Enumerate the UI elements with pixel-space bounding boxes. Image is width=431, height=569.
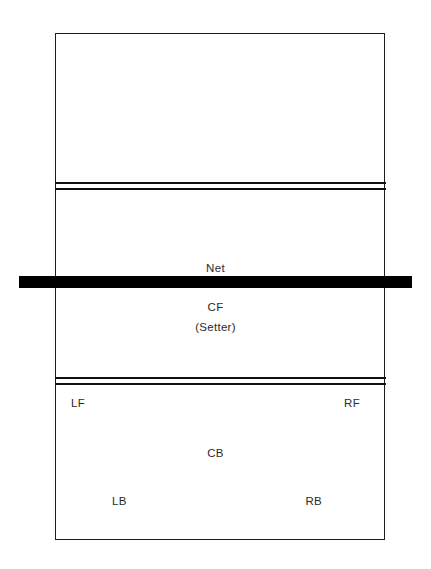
- attack-line-near-stroke-upper: [55, 377, 386, 379]
- net-label: Net: [0, 261, 431, 275]
- position-label-lf: LF: [71, 396, 111, 410]
- net-bar: [19, 276, 412, 288]
- attack-line-far-stroke-lower: [55, 188, 386, 190]
- attack-line-near: [55, 377, 386, 385]
- position-label-cf: CF: [0, 300, 431, 314]
- position-label-rf: RF: [310, 396, 360, 410]
- attack-line-near-stroke-lower: [55, 383, 386, 385]
- position-label-cb: CB: [0, 446, 431, 460]
- volleyball-court-diagram: Net CF (Setter) LF RF CB LB RB: [0, 0, 431, 569]
- attack-line-far-stroke-upper: [55, 182, 386, 184]
- position-label-lb: LB: [112, 494, 152, 508]
- position-label-rb: RB: [272, 494, 322, 508]
- attack-line-far: [55, 182, 386, 190]
- position-role-setter: (Setter): [0, 320, 431, 334]
